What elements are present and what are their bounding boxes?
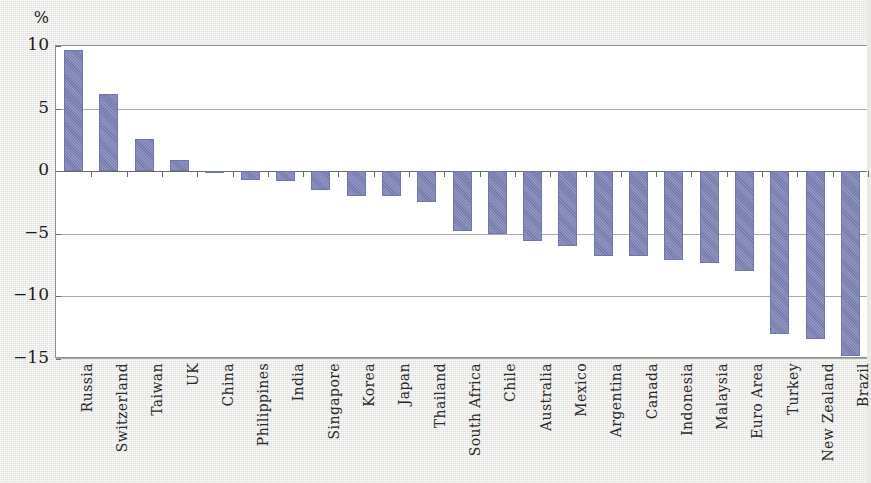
- bar-argentina: [594, 171, 613, 256]
- bar-thailand: [417, 171, 436, 202]
- x-axis-label-china: China: [220, 363, 236, 407]
- gridline: [56, 109, 867, 110]
- x-axis-tick-mark: [127, 171, 128, 177]
- x-axis-label-indonesia: Indonesia: [679, 363, 695, 436]
- x-axis-tick-mark: [303, 171, 304, 177]
- x-axis-tick-mark: [762, 171, 763, 177]
- x-axis-label-canada: Canada: [644, 363, 660, 419]
- x-axis-tick-mark: [586, 171, 587, 177]
- bar-uk: [170, 160, 189, 171]
- bar-new-zealand: [806, 171, 825, 339]
- x-axis-label-brazil: Brazil: [855, 363, 871, 407]
- x-axis-label-malaysia: Malaysia: [714, 363, 730, 430]
- y-axis-unit-label: %: [5, 8, 49, 27]
- y-axis-tick-label: −10: [5, 286, 49, 303]
- x-axis-label-singapore: Singapore: [326, 363, 342, 439]
- x-axis-label-russia: Russia: [79, 363, 95, 412]
- x-axis-tick-mark: [197, 171, 198, 177]
- x-axis-tick-mark: [833, 171, 834, 177]
- bar-canada: [629, 171, 648, 256]
- x-axis-tick-mark: [268, 171, 269, 177]
- x-axis-tick-mark: [691, 171, 692, 177]
- x-axis-tick-mark: [550, 171, 551, 177]
- x-axis-label-japan: Japan: [396, 363, 412, 405]
- x-axis-tick-mark: [374, 171, 375, 177]
- bar-mexico: [558, 171, 577, 246]
- x-axis-tick-mark: [409, 171, 410, 177]
- x-axis-tick-mark: [233, 171, 234, 177]
- bar-korea: [347, 171, 366, 196]
- x-axis-tick-mark: [621, 171, 622, 177]
- bar-indonesia: [664, 171, 683, 260]
- x-axis-label-turkey: Turkey: [785, 363, 801, 415]
- x-axis-tick-mark: [797, 171, 798, 177]
- bar-philippines: [241, 171, 260, 180]
- x-axis-tick-mark: [515, 171, 516, 177]
- y-axis-tick-label: −5: [5, 224, 49, 241]
- gridline: [56, 296, 867, 297]
- x-axis-label-south-africa: South Africa: [467, 363, 483, 456]
- x-axis-tick-mark: [338, 171, 339, 177]
- bar-china: [205, 171, 224, 173]
- bar-euro-area: [735, 171, 754, 271]
- y-axis-tick-label: 10: [5, 36, 49, 53]
- x-axis-label-switzerland: Switzerland: [114, 363, 130, 452]
- x-axis-label-mexico: Mexico: [573, 363, 589, 417]
- x-axis-label-uk: UK: [185, 363, 201, 386]
- y-axis-tick-label: 0: [5, 161, 49, 178]
- x-axis-tick-mark: [480, 171, 481, 177]
- x-axis-label-chile: Chile: [502, 363, 518, 402]
- bar-australia: [523, 171, 542, 241]
- bar-switzerland: [99, 94, 118, 172]
- x-axis-tick-mark: [656, 171, 657, 177]
- x-axis-tick-mark: [444, 171, 445, 177]
- x-axis-label-philippines: Philippines: [255, 363, 271, 446]
- y-axis-tick-mark: [56, 296, 61, 297]
- x-axis-label-taiwan: Taiwan: [149, 363, 165, 416]
- bar-taiwan: [135, 139, 154, 172]
- bar-turkey: [770, 171, 789, 334]
- x-axis-labels: RussiaSwitzerlandTaiwanUKChinaPhilippine…: [55, 359, 867, 483]
- bar-singapore: [311, 171, 330, 190]
- y-axis-tick-mark: [56, 46, 61, 47]
- x-axis-tick-mark: [162, 171, 163, 177]
- x-axis-label-korea: Korea: [361, 363, 377, 407]
- y-axis: % 1050−5−10−15: [0, 0, 49, 483]
- x-axis-label-india: India: [290, 363, 306, 401]
- y-axis-tick-mark: [56, 109, 61, 110]
- x-axis-label-australia: Australia: [538, 363, 554, 431]
- y-axis-tick-label: 5: [5, 99, 49, 116]
- x-axis-label-new-zealand: New Zealand: [820, 363, 836, 462]
- y-axis-tick-mark: [56, 234, 61, 235]
- x-axis-label-euro-area: Euro Area: [749, 363, 765, 439]
- x-axis-tick-mark: [727, 171, 728, 177]
- bar-south-africa: [453, 171, 472, 231]
- x-axis-tick-mark: [91, 171, 92, 177]
- x-axis-label-thailand: Thailand: [432, 363, 448, 428]
- bar-malaysia: [700, 171, 719, 262]
- bar-chile: [488, 171, 507, 234]
- bar-brazil: [841, 171, 860, 356]
- bar-india: [276, 171, 295, 181]
- plot-area: [55, 45, 867, 358]
- y-axis-tick-mark: [56, 171, 61, 172]
- y-axis-tick-label: −15: [5, 349, 49, 366]
- x-axis-tick-mark: [868, 171, 869, 177]
- bar-russia: [64, 50, 83, 171]
- x-axis-label-argentina: Argentina: [608, 363, 624, 437]
- bar-japan: [382, 171, 401, 196]
